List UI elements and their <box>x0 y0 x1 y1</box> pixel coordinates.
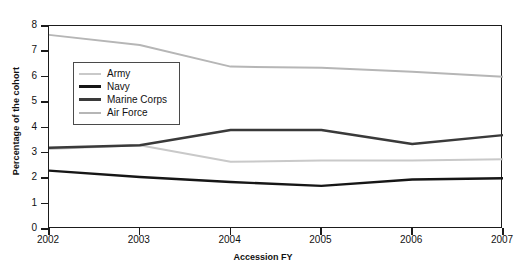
y-tick-label: 8 <box>16 19 37 30</box>
legend-label: Marine Corps <box>107 93 167 106</box>
x-tick-label: 2006 <box>389 234 433 245</box>
y-tick <box>41 50 48 52</box>
y-tick-label: 0 <box>16 222 37 233</box>
legend-item-marine-corps[interactable]: Marine Corps <box>79 93 174 106</box>
y-tick <box>41 203 48 205</box>
y-tick <box>41 152 48 154</box>
x-tick-label: 2003 <box>117 234 161 245</box>
x-tick-label: 2002 <box>26 234 70 245</box>
y-tick-label: 7 <box>16 44 37 55</box>
y-tick-label: 1 <box>16 197 37 208</box>
x-tick-label: 2004 <box>208 234 252 245</box>
series-line-navy <box>49 171 503 186</box>
legend-label: Army <box>107 67 130 80</box>
legend-item-air-force[interactable]: Air Force <box>79 106 174 119</box>
legend: ArmyNavyMarine CorpsAir Force <box>73 62 180 125</box>
legend-item-navy[interactable]: Navy <box>79 80 174 93</box>
legend-line-icon <box>79 98 101 100</box>
legend-line-icon <box>79 112 101 114</box>
legend-label: Air Force <box>107 106 148 119</box>
y-tick <box>41 101 48 103</box>
y-tick <box>41 76 48 78</box>
x-tick-label: 2005 <box>298 234 342 245</box>
series-lines <box>49 26 503 229</box>
legend-line-icon <box>79 85 101 87</box>
legend-item-army[interactable]: Army <box>79 67 174 80</box>
legend-label: Navy <box>107 80 130 93</box>
y-tick-label: 3 <box>16 146 37 157</box>
y-tick <box>41 25 48 27</box>
plot-area <box>48 25 502 228</box>
y-tick <box>41 127 48 129</box>
x-axis-title: Accession FY <box>0 252 526 262</box>
line-chart: Percentage of the cohort Accession FY 01… <box>0 0 526 273</box>
y-tick-label: 2 <box>16 171 37 182</box>
series-line-marine-corps <box>49 130 503 148</box>
y-tick-label: 6 <box>16 70 37 81</box>
y-tick <box>41 228 48 230</box>
y-tick <box>41 177 48 179</box>
y-tick-label: 5 <box>16 95 37 106</box>
legend-line-icon <box>79 73 101 75</box>
series-line-army <box>49 145 503 161</box>
x-tick-label: 2007 <box>480 234 524 245</box>
y-tick-label: 4 <box>16 121 37 132</box>
